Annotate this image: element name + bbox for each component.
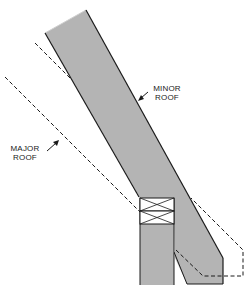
minor-roof-label: MINOR ROOF	[150, 84, 184, 102]
minor-roof-label-line1: MINOR	[150, 84, 184, 93]
minor-roof-rafter	[45, 10, 223, 284]
minor-roof-label-line2: ROOF	[150, 93, 184, 102]
roof-framing-diagram: MINOR ROOF MAJOR ROOF	[0, 0, 249, 292]
minor-roof-arrow-icon	[138, 92, 148, 101]
cross-bracing-blocks	[140, 198, 174, 224]
major-roof-label-line2: ROOF	[8, 153, 42, 162]
major-roof-arrow-icon	[47, 140, 59, 151]
major-roof-label-line1: MAJOR	[8, 144, 42, 153]
wall-post	[140, 224, 174, 285]
major-roof-label: MAJOR ROOF	[8, 144, 42, 162]
